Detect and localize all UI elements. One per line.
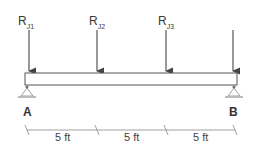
load-label-rj2: RJ2 (89, 15, 105, 27)
dimension-label-1: 5 ft (55, 132, 70, 143)
load-arrows (29, 30, 233, 71)
support-b-icon (225, 86, 243, 97)
dimension-label-2: 5 ft (124, 132, 139, 143)
support-a-icon (18, 86, 36, 97)
dimension-label-3: 5 ft (193, 132, 208, 143)
beam (25, 73, 237, 85)
beam-graphic (0, 0, 254, 150)
support-label-b: B (229, 106, 238, 118)
load-label-rj3: RJ3 (158, 15, 174, 27)
support-label-a: A (23, 106, 32, 118)
beam-diagram: RJ1 RJ2 RJ3 A B 5 ft 5 ft 5 ft (0, 0, 254, 150)
load-label-rj1: RJ1 (18, 15, 34, 27)
